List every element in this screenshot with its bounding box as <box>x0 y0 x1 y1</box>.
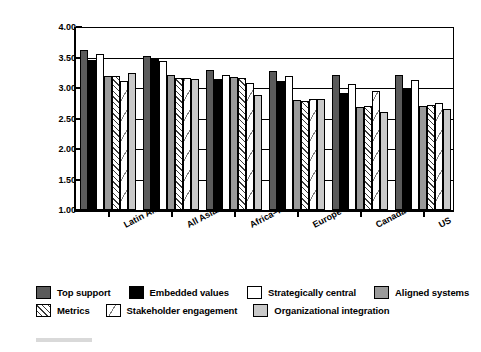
bar <box>214 79 223 210</box>
legend-label: Embedded values <box>150 287 229 298</box>
bar <box>104 76 113 210</box>
x-tick-mark <box>360 210 362 217</box>
bar <box>159 61 168 210</box>
bar <box>348 84 357 210</box>
legend-item: Organizational integration <box>253 304 389 317</box>
x-tick-mark <box>234 210 236 217</box>
legend-label: Metrics <box>57 305 90 316</box>
legend-label: Organizational integration <box>274 305 389 316</box>
bar <box>167 75 176 210</box>
bar <box>372 91 381 210</box>
legend-row-1: Top supportEmbedded valuesStrategically … <box>36 283 466 301</box>
y-tick-label: 1.50 <box>46 175 76 184</box>
bar <box>356 107 365 210</box>
legend-item: Metrics <box>36 304 90 317</box>
bar <box>309 99 318 210</box>
chart-legend: Top supportEmbedded valuesStrategically … <box>36 283 466 319</box>
bar <box>246 83 255 210</box>
bar-group <box>332 27 388 210</box>
y-tick-label: 1.00 <box>46 206 76 215</box>
plot-area: 4.003.503.002.502.001.501.00 Latin Ameri… <box>74 27 454 212</box>
bar <box>175 78 184 210</box>
legend-item: Top support <box>36 286 111 299</box>
bar-group <box>395 27 451 210</box>
footer-rule <box>36 338 92 342</box>
legend-swatch <box>253 304 268 317</box>
legend-item: Embedded values <box>129 286 229 299</box>
bar <box>293 100 302 210</box>
bar <box>222 75 231 210</box>
bar <box>395 75 404 210</box>
bar <box>80 50 89 210</box>
bar <box>364 106 373 210</box>
bar <box>88 60 97 210</box>
bar <box>443 109 452 210</box>
legend-swatch <box>36 286 51 299</box>
bar <box>183 78 192 210</box>
bar <box>317 99 326 210</box>
bar-chart-figure: Extent (1–5) 4.003.503.002.502.001.501.0… <box>0 0 481 352</box>
bar <box>411 80 420 210</box>
x-tick-mark <box>171 210 173 217</box>
legend-item: Aligned systems <box>374 286 469 299</box>
y-tick-label: 3.50 <box>46 53 76 62</box>
legend-swatch <box>36 304 51 317</box>
y-tick-label: 4.00 <box>46 23 76 32</box>
x-axis-label: Latin America <box>122 221 127 230</box>
legend-row-2: MetricsStakeholder engagementOrganizatio… <box>36 301 466 319</box>
bar <box>143 56 152 210</box>
bar <box>230 77 239 210</box>
x-axis-label: US <box>437 221 442 230</box>
legend-swatch <box>106 304 121 317</box>
x-tick-mark <box>108 210 110 217</box>
bar <box>96 54 105 210</box>
bar <box>403 89 412 210</box>
y-tick-label: 2.00 <box>46 145 76 154</box>
legend-label: Stakeholder engagement <box>127 305 238 316</box>
legend-item: Stakeholder engagement <box>106 304 238 317</box>
bar <box>340 93 349 210</box>
bar <box>285 76 294 210</box>
bar <box>435 103 444 210</box>
x-axis-label: Europe E+W <box>311 221 316 230</box>
x-axis-label: Canada <box>374 221 379 230</box>
bar-group <box>206 27 262 210</box>
legend-swatch <box>247 286 262 299</box>
bar <box>301 101 310 210</box>
bar <box>238 78 247 210</box>
bar <box>277 81 286 210</box>
y-tick-label: 2.50 <box>46 114 76 123</box>
legend-swatch <box>374 286 389 299</box>
bar <box>112 76 121 210</box>
x-tick-mark <box>297 210 299 217</box>
x-axis-label: All Asian <box>185 221 190 230</box>
bar <box>380 112 389 210</box>
bar <box>120 81 129 210</box>
legend-label: Aligned systems <box>395 287 469 298</box>
bar <box>427 105 436 210</box>
bar-group <box>269 27 325 210</box>
bar <box>128 73 137 210</box>
bar <box>332 75 341 210</box>
legend-label: Top support <box>57 287 111 298</box>
bar <box>269 71 278 210</box>
bar <box>419 106 428 210</box>
bar <box>206 70 215 210</box>
legend-swatch <box>129 286 144 299</box>
bar <box>151 59 160 210</box>
legend-item: Strategically central <box>247 286 356 299</box>
legend-label: Strategically central <box>268 287 356 298</box>
bar-group <box>143 27 199 210</box>
bar <box>191 79 200 210</box>
bar <box>254 95 263 210</box>
x-axis-label: Africa–Middle East <box>248 221 253 230</box>
y-tick-label: 3.00 <box>46 84 76 93</box>
bar-group <box>80 27 136 210</box>
x-tick-mark <box>423 210 425 217</box>
